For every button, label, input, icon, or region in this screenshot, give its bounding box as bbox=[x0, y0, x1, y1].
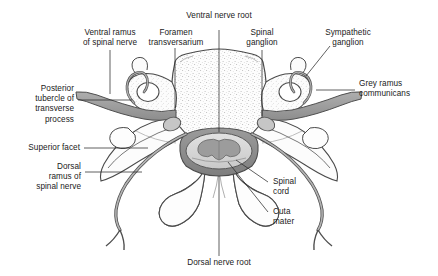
left-superior-facet bbox=[110, 128, 136, 149]
label-spinal-ganglion: Spinal ganglion bbox=[229, 28, 295, 48]
label-foramen-transversarium: Foramen transversarium bbox=[136, 28, 216, 48]
label-grey-ramus-communicans: Grey ramus communicans bbox=[359, 79, 437, 99]
label-posterior-tubercle: Posterior tubercle of transverse process bbox=[6, 84, 74, 125]
figure-canvas: Ventral ramus of spinal nerve Foramen tr… bbox=[0, 0, 438, 276]
label-spinal-cord: Spinal cord bbox=[273, 177, 329, 197]
label-cuta-mater: Cuta mater bbox=[273, 207, 329, 227]
leader-sympathetic-ganglion bbox=[306, 46, 330, 76]
label-sympathetic-ganglion: Sympathetic ganglion bbox=[311, 28, 385, 48]
superior-facet-right bbox=[303, 128, 329, 149]
label-superior-facet: Superior facet bbox=[4, 143, 80, 153]
dorsal-ramus-branches-right bbox=[314, 230, 332, 250]
label-dorsal-nerve-root: Dorsal nerve root bbox=[164, 258, 274, 268]
superior-facet-left bbox=[110, 128, 136, 149]
right-superior-facet bbox=[303, 128, 329, 149]
dorsal-ramus-branches-left bbox=[106, 230, 124, 250]
label-ventral-nerve-root: Ventral nerve root bbox=[163, 11, 275, 21]
label-dorsal-ramus: Dorsal ramus of spinal nerve bbox=[4, 162, 81, 193]
spinal-cord-group bbox=[186, 133, 252, 169]
